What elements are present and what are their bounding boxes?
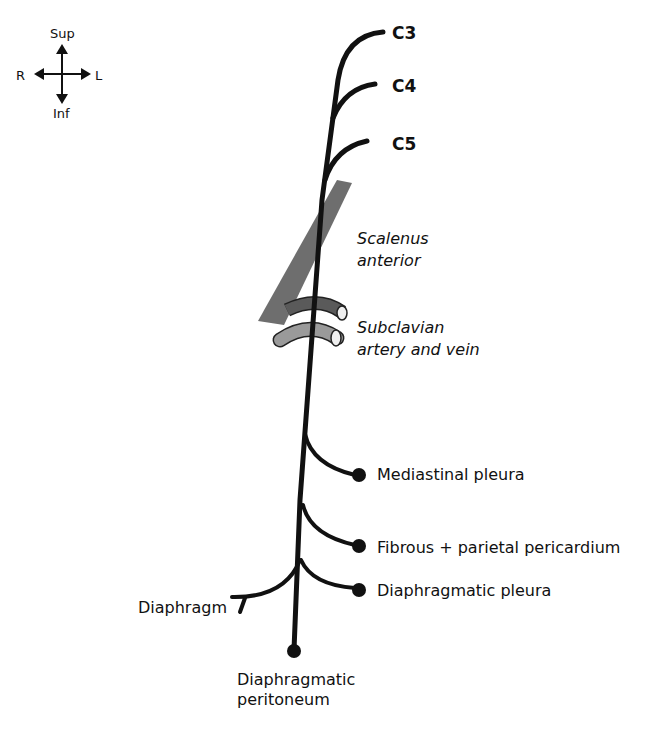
mediastinal-pleura-dot [352, 468, 366, 482]
root-c4-label: C4 [392, 77, 416, 96]
root-c5-label: C5 [392, 135, 416, 154]
subclavian-label-line1: Subclavian [357, 318, 444, 337]
diaphragmatic-peritoneum-dot [287, 644, 301, 658]
root-c3-label: C3 [392, 24, 416, 43]
peritoneum-label-line2: peritoneum [237, 690, 330, 709]
label-right: R [16, 66, 25, 85]
orientation-compass-icon [34, 44, 91, 104]
pericardium-label: Fibrous + parietal pericardium [377, 538, 620, 557]
label-sup: Sup [50, 24, 75, 43]
label-inf: Inf [53, 104, 70, 123]
scalenus-label-line1: Scalenus [357, 229, 429, 248]
mediastinal-pleura-label: Mediastinal pleura [377, 465, 525, 484]
diaphragmatic-pleura-dot [352, 583, 366, 597]
phrenic-nerve-diagram [0, 0, 659, 733]
diaphragmatic-pleura-label: Diaphragmatic pleura [377, 581, 551, 600]
diaphragm-label: Diaphragm [138, 598, 227, 617]
peritoneum-label-line1: Diaphragmatic [237, 670, 355, 689]
pericardium-dot [352, 539, 366, 553]
subclavian-label-line2: artery and vein [357, 340, 480, 359]
subclavian-artery [287, 303, 347, 320]
scalenus-label-line2: anterior [357, 251, 420, 270]
label-left: L [95, 66, 102, 85]
